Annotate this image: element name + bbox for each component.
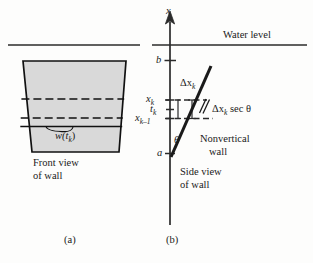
delta-x-sec-theta-label: Δxk sec θ — [212, 104, 251, 117]
tick-label-a: a — [157, 148, 162, 159]
tick-label-x-k-minus-1: xk–1 — [135, 113, 151, 126]
delta-x-sec-theta-rest: sec θ — [227, 103, 251, 114]
front-view-label-line2: of wall — [33, 170, 62, 182]
delta-x-sec-theta-base: Δx — [212, 103, 224, 114]
delta-x-sec-tick-2 — [203, 100, 210, 114]
panel-b-caption: (b) — [166, 234, 178, 245]
delta-x-k-label: Δxk — [180, 78, 195, 91]
delta-x-k-label-sub: k — [192, 82, 195, 91]
delta-x-sec-tick-1 — [200, 99, 207, 113]
x-axis-label: x — [166, 6, 171, 17]
side-view-label-line2: of wall — [180, 179, 209, 191]
nonvertical-wall-label-line2: wall — [209, 146, 227, 158]
tick-label-t-k-sub: k — [153, 108, 156, 117]
figure-container: w(tk) Front view of wall (a) x Water lev… — [0, 0, 313, 263]
strip-width-label-close: ) — [72, 130, 76, 141]
strip-width-label-w: w(t — [55, 130, 68, 141]
delta-x-k-label-base: Δx — [180, 77, 192, 88]
panel-a-caption: (a) — [64, 234, 76, 245]
tick-label-b: b — [156, 55, 161, 66]
nonvertical-wall-label-line1: Nonvertical — [200, 133, 250, 145]
front-view-label-line1: Front view — [33, 157, 79, 169]
water-level-label: Water level — [223, 29, 271, 41]
tick-label-t-k: tk — [150, 104, 156, 117]
theta-angle-label: θ — [174, 135, 179, 146]
t-k-bracket — [178, 100, 181, 119]
side-view-label-line1: Side view — [180, 166, 222, 178]
strip-width-label: w(tk) — [55, 131, 75, 144]
tick-label-x-k-minus-1-sub: k–1 — [140, 117, 151, 126]
